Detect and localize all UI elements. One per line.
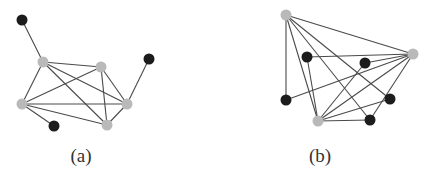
black-node (17, 15, 28, 26)
edge (43, 62, 127, 104)
gray-node (281, 10, 292, 21)
gray-node (102, 120, 113, 131)
edge (318, 99, 390, 121)
gray-node (96, 62, 107, 73)
caption-a: (a) (70, 145, 91, 167)
edge (286, 15, 318, 121)
black-node (281, 95, 292, 106)
black-node (144, 54, 155, 65)
edge (22, 62, 43, 104)
black-node (360, 58, 371, 69)
graph-figure: (a) (b) (0, 0, 432, 173)
edge (127, 59, 149, 104)
gray-node (38, 57, 49, 68)
subfigure-b: (b) (281, 10, 419, 168)
edge (318, 120, 370, 121)
gray-node (17, 99, 28, 110)
edge (101, 67, 107, 125)
edge (286, 15, 370, 120)
edge (22, 20, 43, 62)
edge (370, 54, 413, 120)
edge (22, 104, 107, 125)
caption-b: (b) (309, 145, 331, 167)
black-node (302, 52, 313, 63)
edge (318, 63, 365, 121)
black-node (385, 94, 396, 105)
gray-node (122, 99, 133, 110)
black-node (365, 115, 376, 126)
edge (101, 67, 127, 104)
edges-a (22, 20, 149, 126)
edge (22, 104, 54, 126)
gray-node (313, 116, 324, 127)
edge (43, 62, 107, 125)
edges-b (286, 15, 413, 121)
edge (286, 15, 413, 54)
gray-node (408, 49, 419, 60)
subfigure-a: (a) (17, 15, 155, 168)
black-node (49, 121, 60, 132)
